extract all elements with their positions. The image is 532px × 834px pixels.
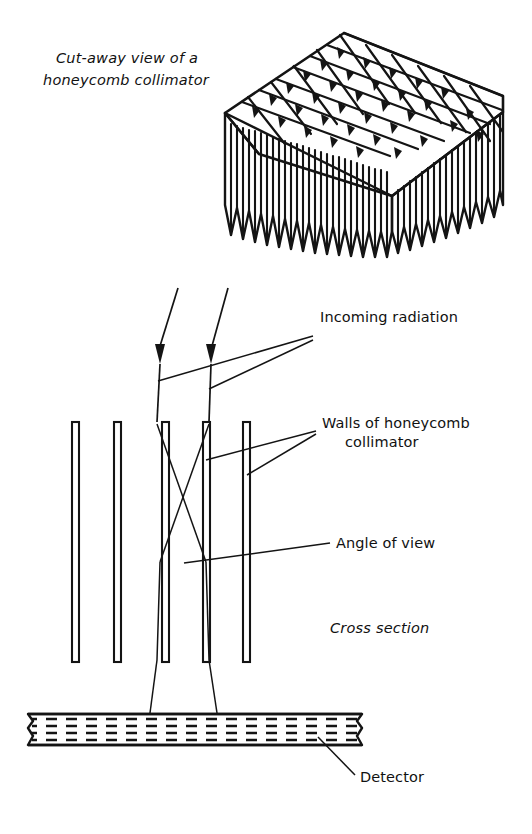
collimator-wall-4	[203, 422, 210, 662]
detector-leader	[318, 737, 355, 775]
label-detector: Detector	[360, 769, 424, 785]
collimator-wall-1	[72, 422, 79, 662]
incoming-radiation-leaders	[158, 336, 313, 389]
detector-hatching	[26, 719, 372, 740]
collimator-walls	[72, 422, 250, 662]
angle-of-view-leader	[184, 543, 330, 563]
label-cross-section: Cross section	[330, 620, 430, 636]
collimator-wall-5	[243, 422, 250, 662]
detector-slab	[26, 714, 372, 745]
cutaway-honeycomb-illustration	[225, 33, 503, 257]
cutaway-title-line2: honeycomb collimator	[43, 72, 210, 88]
incoming-ray-left	[155, 288, 178, 422]
collimator-wall-2	[114, 422, 121, 662]
label-walls-line2: collimator	[345, 434, 418, 450]
walls-leaders	[206, 431, 316, 475]
label-incoming-radiation: Incoming radiation	[320, 309, 458, 325]
collimator-wall-3	[162, 422, 169, 662]
incoming-ray-right	[206, 288, 228, 422]
cutaway-title-line1: Cut-away view of a	[56, 50, 198, 66]
honeycomb-side-fins	[392, 112, 503, 253]
angle-of-view-rays	[150, 424, 217, 713]
label-walls-line1: Walls of honeycomb	[322, 415, 470, 431]
label-angle-of-view: Angle of view	[336, 535, 435, 551]
cross-section-diagram	[26, 288, 372, 775]
honeycomb-collimator-figure: Cut-away view of a honeycomb collimator	[0, 0, 532, 834]
